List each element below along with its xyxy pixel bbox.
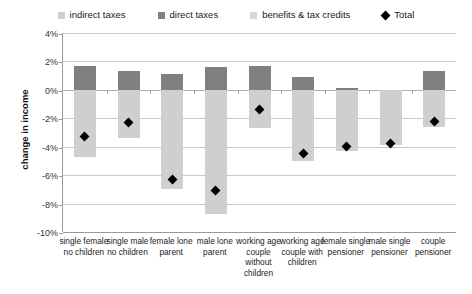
bars-group: [63, 33, 456, 232]
gridline: -10%: [63, 232, 456, 233]
legend-swatch-icon: [158, 12, 165, 19]
legend-item-total[interactable]: Total: [382, 10, 414, 20]
x-tick-mark: [194, 90, 195, 94]
x-tick-mark: [150, 90, 151, 94]
x-tick-mark: [238, 90, 239, 94]
x-tick-mark: [325, 90, 326, 94]
x-axis-label: female lone parent: [146, 236, 196, 257]
legend-label: direct taxes: [170, 10, 219, 20]
bar-group[interactable]: [292, 33, 314, 232]
bar-group[interactable]: [205, 33, 227, 232]
chart-container: indirect taxesdirect taxesbenefits & tax…: [0, 0, 472, 294]
x-axis-label: single male no children: [103, 236, 153, 257]
y-tick-label: 0%: [45, 86, 58, 96]
legend-label: Total: [394, 10, 414, 20]
y-tick-label: -6%: [42, 171, 58, 181]
bar-segment-direct-taxes[interactable]: [161, 74, 183, 90]
y-tick-mark: [59, 233, 63, 234]
x-axis-label: couple pensioner: [408, 236, 458, 257]
bar-segment-direct-taxes[interactable]: [423, 71, 445, 89]
y-tick-label: -2%: [42, 114, 58, 124]
bar-segment-direct-taxes[interactable]: [292, 77, 314, 90]
bar-segment-indirect-taxes[interactable]: [118, 90, 140, 138]
bar-segment-direct-taxes[interactable]: [205, 67, 227, 90]
x-axis-labels: single female no childrensingle male no …: [62, 236, 455, 294]
bar-group[interactable]: [249, 33, 271, 232]
legend-swatch-icon: [58, 12, 65, 19]
x-tick-mark: [369, 90, 370, 94]
y-tick-label: 4%: [45, 29, 58, 39]
bar-group[interactable]: [423, 33, 445, 232]
x-axis-label: working age couple without children: [234, 236, 284, 278]
x-tick-mark: [412, 90, 413, 94]
x-axis-label: male lone parent: [190, 236, 240, 257]
y-tick-label: -8%: [42, 200, 58, 210]
x-tick-mark: [281, 90, 282, 94]
bar-segment-indirect-taxes[interactable]: [74, 90, 96, 157]
bar-group[interactable]: [380, 33, 402, 232]
bar-group[interactable]: [336, 33, 358, 232]
bar-segment-direct-taxes[interactable]: [74, 66, 96, 90]
x-axis-label: single female no children: [59, 236, 109, 257]
bar-segment-direct-taxes[interactable]: [249, 66, 271, 90]
x-tick-mark: [107, 90, 108, 94]
y-tick-label: 2%: [45, 57, 58, 67]
legend-diamond-icon: [381, 10, 391, 20]
chart-legend: indirect taxesdirect taxesbenefits & tax…: [0, 6, 472, 24]
bar-group[interactable]: [161, 33, 183, 232]
x-axis-label: male single pensioner: [365, 236, 415, 257]
x-axis-label: female single pensioner: [321, 236, 371, 257]
legend-label: benefits & tax credits: [262, 10, 350, 20]
legend-item-indirect-taxes[interactable]: indirect taxes: [58, 10, 126, 20]
bar-group[interactable]: [74, 33, 96, 232]
y-axis-title: change in income: [19, 70, 30, 190]
bar-segment-indirect-taxes[interactable]: [380, 90, 402, 145]
legend-label: indirect taxes: [70, 10, 126, 20]
bar-group[interactable]: [118, 33, 140, 232]
y-tick-label: -4%: [42, 143, 58, 153]
legend-swatch-icon: [250, 12, 257, 19]
bar-segment-direct-taxes[interactable]: [118, 71, 140, 89]
legend-item-direct-taxes[interactable]: direct taxes: [158, 10, 219, 20]
y-tick-label: -10%: [37, 228, 58, 238]
legend-item-benefits-tax-credits[interactable]: benefits & tax credits: [250, 10, 350, 20]
plot-area: 4%2%0%-2%-4%-6%-8%-10%: [62, 33, 455, 232]
x-axis-label: working age couple with children: [277, 236, 327, 268]
